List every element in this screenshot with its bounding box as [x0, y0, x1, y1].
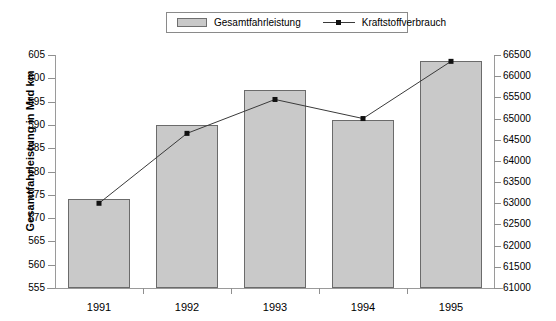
- right-tick-mark: [494, 224, 501, 225]
- x-axis-label: 1994: [351, 301, 375, 313]
- left-tick-mark: [48, 148, 55, 149]
- left-tick-mark: [48, 195, 55, 196]
- right-tick-label: 61500: [503, 262, 531, 272]
- right-tick-label: 62000: [503, 241, 531, 251]
- right-tick-mark: [494, 182, 501, 183]
- x-tick-mark: [143, 288, 144, 294]
- line-data-point-marker: [361, 116, 366, 121]
- plot-area: 555560565570575580585590595600605 610006…: [55, 55, 495, 288]
- right-tick-mark: [494, 288, 501, 289]
- legend-bar-swatch-icon: [177, 18, 207, 27]
- legend-label-kraftstoffverbrauch: Kraftstoffverbrauch: [362, 18, 446, 28]
- right-tick-label: 61000: [503, 283, 531, 293]
- left-tick-label: 580: [28, 167, 45, 177]
- left-tick-mark: [48, 218, 55, 219]
- left-tick-label: 555: [28, 283, 45, 293]
- legend-label-gesamtfahrleistung: Gesamtfahrleistung: [214, 18, 301, 28]
- left-tick-label: 600: [28, 73, 45, 83]
- x-axis-label: 1991: [87, 301, 111, 313]
- left-tick-mark: [48, 55, 55, 56]
- legend-square-marker-icon: [336, 20, 341, 25]
- line-data-point-marker: [273, 97, 278, 102]
- right-tick-mark: [494, 55, 501, 56]
- legend-item-kraftstoffverbrauch[interactable]: Kraftstoffverbrauch: [323, 13, 446, 32]
- right-tick-label: 64000: [503, 156, 531, 166]
- left-tick-mark: [48, 78, 55, 79]
- right-tick-mark: [494, 97, 501, 98]
- left-tick-mark: [48, 172, 55, 173]
- right-tick-mark: [494, 119, 501, 120]
- right-tick-mark: [494, 246, 501, 247]
- x-axis-label: 1995: [439, 301, 463, 313]
- left-tick-mark: [48, 125, 55, 126]
- chart-legend: Gesamtfahrleistung Kraftstoffverbrauch: [166, 12, 408, 33]
- left-tick-mark: [48, 288, 55, 289]
- left-tick-label: 595: [28, 97, 45, 107]
- legend-item-gesamtfahrleistung[interactable]: Gesamtfahrleistung: [177, 13, 301, 32]
- x-tick-mark: [319, 288, 320, 294]
- left-tick-mark: [48, 102, 55, 103]
- right-tick-label: 62500: [503, 219, 531, 229]
- left-tick-mark: [48, 241, 55, 242]
- left-tick-label: 590: [28, 120, 45, 130]
- right-tick-label: 66500: [503, 50, 531, 60]
- left-tick-mark: [48, 265, 55, 266]
- right-tick-mark: [494, 203, 501, 204]
- left-tick-label: 570: [28, 213, 45, 223]
- right-tick-label: 65500: [503, 92, 531, 102]
- right-tick-label: 63500: [503, 177, 531, 187]
- x-tick-mark: [231, 288, 232, 294]
- right-tick-mark: [494, 267, 501, 268]
- x-tick-mark: [407, 288, 408, 294]
- right-tick-mark: [494, 161, 501, 162]
- left-tick-label: 605: [28, 50, 45, 60]
- x-axis-line: [47, 288, 503, 289]
- right-tick-label: 64500: [503, 135, 531, 145]
- line-data-point-marker: [97, 201, 102, 206]
- line-data-point-marker: [185, 131, 190, 136]
- chart-container: Gesamtfahrleistung Kraftstoffverbrauch G…: [0, 0, 556, 321]
- left-tick-label: 585: [28, 143, 45, 153]
- left-tick-label: 575: [28, 190, 45, 200]
- line-series-kraftstoffverbrauch: [55, 55, 495, 288]
- right-tick-mark: [494, 140, 501, 141]
- x-axis-label: 1992: [175, 301, 199, 313]
- right-tick-label: 63000: [503, 198, 531, 208]
- right-tick-label: 65000: [503, 114, 531, 124]
- line-data-point-marker: [449, 59, 454, 64]
- right-tick-label: 66000: [503, 71, 531, 81]
- legend-line-swatch-icon: [323, 18, 355, 27]
- left-tick-label: 560: [28, 260, 45, 270]
- right-tick-mark: [494, 76, 501, 77]
- x-axis-label: 1993: [263, 301, 287, 313]
- left-tick-label: 565: [28, 236, 45, 246]
